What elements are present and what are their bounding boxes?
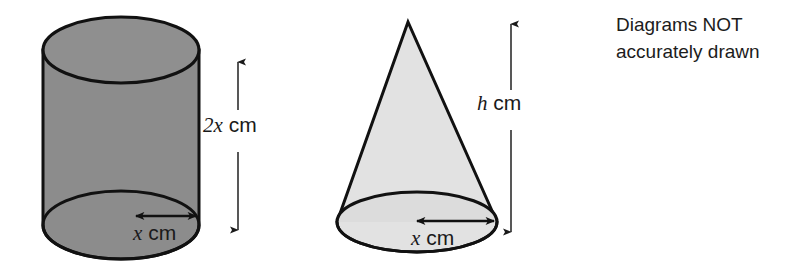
cylinder-radius-unit: cm [148,221,176,244]
not-accurately-drawn-note: Diagrams NOT accurately drawn [616,12,760,66]
cylinder-top-ellipse [43,17,199,83]
cylinder-height-variable: 2x [203,113,223,137]
cylinder-radius-label: x cm [133,222,176,244]
diagram-canvas: 2x cm x cm h cm x cm Diagrams NOT accura… [0,0,788,263]
cone-radius-variable: x [411,226,420,250]
cone-shape [337,22,497,252]
cylinder-radius-variable: x [133,221,142,245]
cone-radius-unit: cm [426,226,454,249]
cone-height-variable: h [477,91,488,115]
cone-height-unit: cm [493,91,521,114]
cone-height-label: h cm [477,92,521,114]
cone-radius-label: x cm [411,227,454,249]
cylinder-height-label: 2x cm [203,114,257,136]
cylinder-height-unit: cm [229,113,257,136]
note-line-2: accurately drawn [616,39,760,66]
note-line-1: Diagrams NOT [616,12,760,39]
